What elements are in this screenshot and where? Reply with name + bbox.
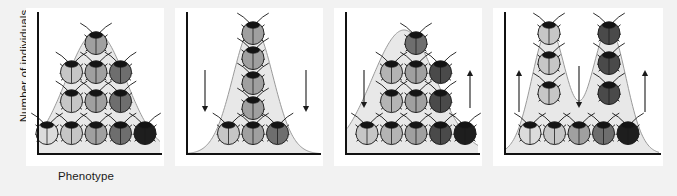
original-population-plot: [26, 8, 164, 166]
disruptive-selection-plot: [493, 8, 663, 166]
panel-disruptive-selection: [493, 8, 663, 166]
panel-directional-selection: [334, 8, 482, 166]
beetle-population: [213, 13, 293, 144]
panel-original-population: [26, 8, 164, 166]
selection-arrow-down-1: [361, 70, 367, 108]
selection-arrow-up-2: [467, 70, 473, 108]
selection-arrow-down-1: [202, 70, 208, 112]
beetle-2: [594, 13, 625, 44]
beetle-population: [32, 23, 161, 144]
natural-selection-figure: Number of individuals Phenotype: [0, 0, 677, 196]
x-axis-label: Phenotype: [58, 170, 114, 182]
selection-arrow-down-2: [303, 70, 309, 112]
beetle-1: [238, 13, 269, 44]
selection-arrow-up-1: [516, 70, 522, 112]
panel-stabilizing-selection: [175, 8, 323, 166]
beetle-1: [534, 13, 565, 44]
stabilizing-selection-plot: [175, 8, 323, 166]
directional-selection-plot: [334, 8, 482, 166]
selection-arrow-up-3: [642, 70, 648, 112]
